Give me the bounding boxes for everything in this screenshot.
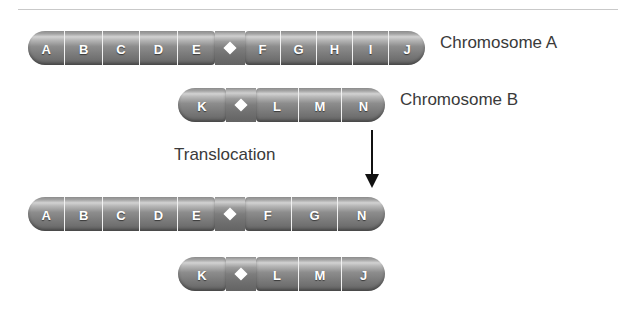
chromosome-b-before-left-arm: K	[178, 88, 226, 122]
segment-letter: L	[273, 99, 281, 114]
segment-letter: H	[330, 42, 339, 57]
top-divider-rule	[18, 9, 618, 10]
segment-letter: E	[192, 208, 201, 223]
chromosome-a-before: ABCDE FGHIJ	[28, 31, 425, 65]
chromosome-a-before-segment-g: G	[281, 31, 317, 65]
chromosome-a-before-segment-c: C	[103, 31, 140, 65]
segment-letter: C	[116, 208, 125, 223]
chromosome-a-after-segment-d: D	[140, 197, 177, 231]
chromosome-a-after-right-arm: FGN	[245, 197, 385, 231]
chromosome-a-before-segment-a: A	[28, 31, 65, 65]
chromosome-a-before-segment-i: I	[353, 31, 389, 65]
chromosome-a-label-before: Chromosome A	[440, 33, 557, 53]
segment-letter: M	[315, 99, 326, 114]
centromere-icon	[226, 257, 256, 291]
chromosome-b-label-before: Chromosome B	[400, 90, 518, 110]
chromosome-a-before-segment-e: E	[178, 31, 215, 65]
centromere-icon	[226, 88, 256, 122]
chromosome-a-after-segment-g: G	[292, 197, 339, 231]
down-arrow-icon	[365, 130, 379, 188]
arrow-head	[365, 174, 379, 188]
segment-letter: E	[192, 42, 201, 57]
chromosome-b-after-segment-m: M	[299, 257, 342, 291]
segment-letter: A	[42, 208, 51, 223]
segment-letter: F	[259, 42, 267, 57]
chromosome-a-after: ABCDE FGN	[28, 197, 385, 231]
arrow-shaft	[371, 130, 373, 177]
segment-letter: A	[42, 42, 51, 57]
chromosome-b-after-segment-j: J	[342, 257, 385, 291]
segment-letter: K	[197, 99, 206, 114]
chromosome-a-before-segment-h: H	[317, 31, 353, 65]
chromosome-a-after-segment-n: N	[338, 197, 385, 231]
segment-letter: J	[360, 268, 367, 283]
segment-letter: B	[79, 42, 88, 57]
chromosome-a-before-segment-b: B	[65, 31, 102, 65]
segment-letter: G	[309, 208, 319, 223]
segment-letter: F	[264, 208, 272, 223]
segment-letter: I	[369, 42, 373, 57]
chromosome-a-before-left-arm: ABCDE	[28, 31, 215, 65]
segment-letter: D	[154, 42, 163, 57]
chromosome-b-before-segment-l: L	[256, 88, 299, 122]
chromosome-a-after-segment-e: E	[178, 197, 215, 231]
chromosome-b-before-right-arm: LMN	[256, 88, 385, 122]
segment-letter: L	[273, 268, 281, 283]
chromosome-b-before: K LMN	[178, 88, 385, 122]
chromosome-a-after-left-arm: ABCDE	[28, 197, 215, 231]
chromosome-b-after-right-arm: LMJ	[256, 257, 385, 291]
chromosome-b-after-segment-l: L	[256, 257, 299, 291]
translocation-label: Translocation	[174, 145, 275, 165]
chromosome-a-before-segment-d: D	[140, 31, 177, 65]
chromosome-b-before-segment-k: K	[178, 88, 226, 122]
figure-canvas: ABCDE FGHIJ Chromosome A K LMN Chromosom…	[0, 0, 631, 316]
chromosome-a-before-segment-f: F	[245, 31, 281, 65]
centromere-icon	[215, 197, 245, 231]
chromosome-a-after-segment-f: F	[245, 197, 292, 231]
segment-letter: C	[116, 42, 125, 57]
chromosome-a-after-segment-b: B	[65, 197, 102, 231]
chromosome-b-after: K LMJ	[178, 257, 385, 291]
segment-letter: K	[197, 268, 206, 283]
chromosome-a-after-segment-a: A	[28, 197, 65, 231]
chromosome-a-before-segment-j: J	[389, 31, 425, 65]
segment-letter: J	[403, 42, 410, 57]
segment-letter: G	[293, 42, 303, 57]
chromosome-b-before-segment-m: M	[299, 88, 342, 122]
segment-letter: D	[154, 208, 163, 223]
chromosome-a-before-right-arm: FGHIJ	[245, 31, 425, 65]
segment-letter: N	[359, 99, 368, 114]
chromosome-b-after-segment-k: K	[178, 257, 226, 291]
chromosome-b-before-segment-n: N	[342, 88, 385, 122]
centromere-icon	[215, 31, 245, 65]
chromosome-a-after-segment-c: C	[103, 197, 140, 231]
segment-letter: N	[357, 208, 366, 223]
chromosome-b-after-left-arm: K	[178, 257, 226, 291]
segment-letter: B	[79, 208, 88, 223]
segment-letter: M	[315, 268, 326, 283]
